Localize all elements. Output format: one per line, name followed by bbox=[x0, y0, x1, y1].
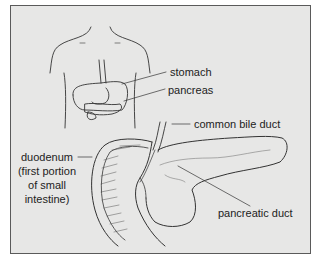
label-duodenum-line2: (first portion bbox=[14, 164, 80, 178]
label-duodenum-line4: intestine) bbox=[14, 192, 80, 206]
label-duodenum-line1: duodenum bbox=[14, 150, 80, 164]
stomach-leader-line bbox=[122, 72, 166, 84]
anatomy-illustration bbox=[0, 0, 318, 266]
duodenum-illustration bbox=[92, 139, 165, 246]
pancreatic-duct-leader-line bbox=[178, 166, 250, 206]
label-pancreatic-duct: pancreatic duct bbox=[218, 206, 293, 220]
label-duodenum: duodenum (first portion of small intesti… bbox=[14, 150, 80, 206]
pancreas-leader-line bbox=[124, 89, 165, 101]
label-duodenum-line3: of small bbox=[14, 178, 80, 192]
label-stomach: stomach bbox=[170, 65, 212, 79]
esophagus bbox=[99, 60, 106, 83]
torso-outline bbox=[50, 27, 150, 128]
label-pancreas: pancreas bbox=[168, 83, 213, 97]
label-common-bile-duct: common bile duct bbox=[194, 117, 280, 131]
stomach-small bbox=[73, 82, 128, 111]
pancreas-small bbox=[85, 103, 122, 119]
